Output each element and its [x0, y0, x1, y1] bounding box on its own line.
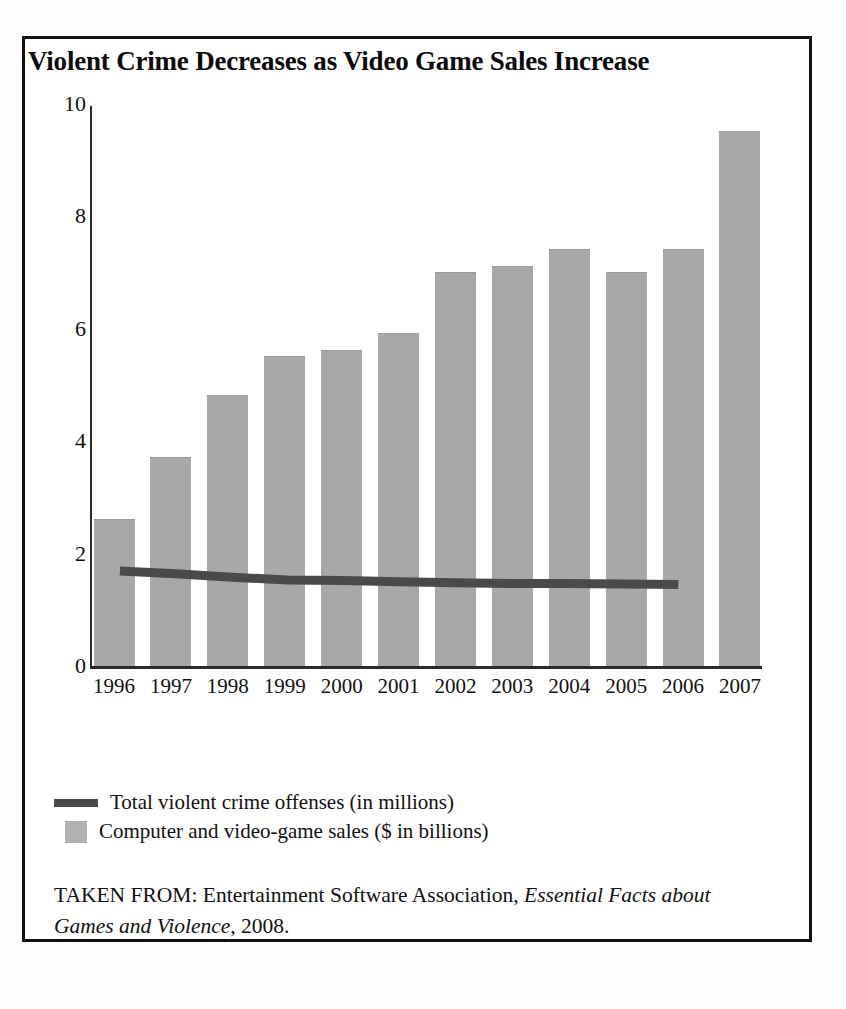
- x-tick-2002: 2002: [433, 674, 477, 699]
- bar-series: [92, 96, 762, 666]
- bar-column: [718, 96, 762, 666]
- bar-column: [263, 96, 307, 666]
- x-tick-2007: 2007: [718, 674, 762, 699]
- bar-column: [490, 96, 534, 666]
- x-tick-2003: 2003: [490, 674, 534, 699]
- x-axis-tick-labels: 1996199719981999200020012002200320042005…: [92, 674, 762, 699]
- plot-area: 1086420 19961997199819992000200120022003…: [28, 96, 763, 706]
- bar-2001: [378, 333, 419, 666]
- bar-column: [92, 96, 136, 666]
- bar-column: [377, 96, 421, 666]
- bar-2005: [606, 272, 647, 666]
- source-suffix: , 2008.: [230, 914, 289, 938]
- x-tick-1996: 1996: [92, 674, 136, 699]
- y-tick-10: 10: [42, 93, 86, 115]
- x-tick-2001: 2001: [377, 674, 421, 699]
- y-tick-6: 6: [42, 318, 86, 340]
- bar-2003: [492, 266, 533, 666]
- bar-1997: [150, 457, 191, 666]
- x-tick-1997: 1997: [149, 674, 193, 699]
- x-tick-1999: 1999: [263, 674, 307, 699]
- bar-2007: [719, 131, 760, 666]
- bar-column: [547, 96, 591, 666]
- bar-1999: [264, 356, 305, 666]
- bar-column: [433, 96, 477, 666]
- x-tick-2005: 2005: [604, 674, 648, 699]
- bar-column: [604, 96, 648, 666]
- x-tick-1998: 1998: [206, 674, 250, 699]
- bar-column: [149, 96, 193, 666]
- y-axis-tick-labels: 1086420: [28, 96, 86, 668]
- box-swatch-icon: [65, 821, 87, 843]
- y-tick-8: 8: [42, 205, 86, 227]
- y-tick-0: 0: [42, 655, 86, 677]
- bar-2002: [435, 272, 476, 666]
- bar-2006: [663, 249, 704, 666]
- bar-column: [320, 96, 364, 666]
- source-prefix: TAKEN FROM: Entertainment Software Assoc…: [54, 883, 524, 907]
- x-tick-2006: 2006: [661, 674, 705, 699]
- line-swatch-icon: [54, 799, 98, 807]
- legend-label-violent-crime: Total violent crime offenses (in million…: [110, 790, 454, 815]
- bar-2004: [549, 249, 590, 666]
- page-background: Violent Crime Decreases as Video Game Sa…: [0, 0, 846, 1009]
- x-axis-line: [90, 666, 762, 669]
- x-tick-2004: 2004: [547, 674, 591, 699]
- bar-column: [661, 96, 705, 666]
- y-tick-2: 2: [42, 543, 86, 565]
- chart-legend: Total violent crime offenses (in million…: [54, 790, 754, 848]
- legend-item-violent-crime: Total violent crime offenses (in million…: [54, 790, 754, 815]
- bar-1996: [94, 519, 135, 666]
- chart-title: Violent Crime Decreases as Video Game Sa…: [28, 46, 728, 77]
- x-tick-2000: 2000: [320, 674, 364, 699]
- bar-column: [206, 96, 250, 666]
- source-attribution: TAKEN FROM: Entertainment Software Assoc…: [54, 880, 744, 942]
- bar-2000: [321, 350, 362, 666]
- bar-1998: [207, 395, 248, 666]
- legend-item-game-sales: Computer and video-game sales ($ in bill…: [54, 819, 754, 844]
- y-tick-4: 4: [42, 430, 86, 452]
- legend-label-game-sales: Computer and video-game sales ($ in bill…: [99, 819, 489, 844]
